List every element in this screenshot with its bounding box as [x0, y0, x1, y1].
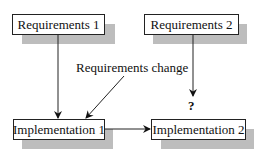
node-label: Implementation 1 — [13, 122, 105, 138]
question-mark-label: ? — [188, 98, 195, 114]
node-requirements-2: Requirements 2 — [144, 14, 239, 35]
node-label: Requirements 1 — [18, 17, 100, 33]
node-label: Requirements 2 — [151, 17, 233, 33]
arrow-change-to-impl1 — [86, 76, 124, 118]
node-requirements-1: Requirements 1 — [12, 14, 105, 35]
node-implementation-2: Implementation 2 — [151, 119, 246, 140]
requirements-change-label: Requirements change — [76, 60, 188, 76]
diagram-canvas: Requirements 1 Requirements 2 Implementa… — [0, 0, 264, 164]
node-implementation-1: Implementation 1 — [13, 119, 105, 140]
node-label: Implementation 2 — [152, 122, 244, 138]
